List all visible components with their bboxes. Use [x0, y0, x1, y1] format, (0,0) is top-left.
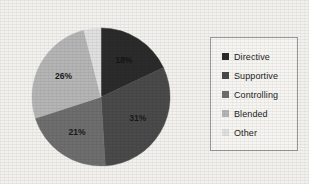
legend-item-label: Supportive: [234, 71, 278, 81]
legend-item-label: Controlling: [234, 90, 278, 100]
pie-slice-value-label: 18%: [115, 55, 132, 65]
legend-swatch-icon: [222, 91, 229, 98]
chart-legend: Directive Supportive Controlling Blended…: [210, 37, 298, 151]
legend-swatch-icon: [222, 110, 229, 117]
legend-item-blended: Blended: [222, 104, 297, 123]
pie-slice-value-label: 21%: [68, 127, 85, 137]
legend-item-directive: Directive: [222, 47, 297, 66]
legend-swatch-icon: [222, 53, 229, 60]
legend-item-label: Other: [234, 128, 257, 138]
pie-slice-value-label: 26%: [55, 71, 72, 81]
legend-swatch-icon: [222, 129, 229, 136]
pie-chart-plot-area: 18%31%21%26%4%: [31, 27, 171, 167]
legend-item-label: Directive: [234, 52, 270, 62]
legend-swatch-icon: [222, 72, 229, 79]
legend-item-supportive: Supportive: [222, 66, 297, 85]
legend-item-other: Other: [222, 123, 297, 142]
legend-item-controlling: Controlling: [222, 85, 297, 104]
legend-item-label: Blended: [234, 109, 268, 119]
pie-chart-figure: 18%31%21%26%4% Directive Supportive Cont…: [0, 0, 309, 184]
pie-slice-value-label: 31%: [129, 113, 146, 123]
pie-svg: 18%31%21%26%4%: [31, 27, 171, 167]
pie-slice-group: [32, 28, 170, 166]
